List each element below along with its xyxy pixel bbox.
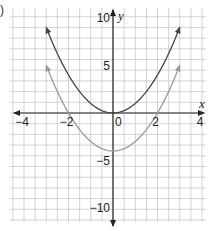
part-label: ): [0, 3, 4, 17]
y-tick-label: −10: [90, 201, 111, 215]
tick-labels: −4−2024105−5−10xy: [15, 8, 205, 215]
x-tick-label: 0: [115, 115, 122, 129]
x-tick-label: −2: [60, 115, 74, 129]
grid: [10, 8, 206, 222]
x-tick-label: 2: [152, 115, 159, 129]
y-axis-label: y: [116, 8, 124, 23]
y-tick-label: 10: [97, 11, 111, 25]
x-tick-label: 4: [197, 115, 204, 129]
y-tick-label: 5: [103, 59, 110, 73]
graph-figure: ) −4−2024105−5−10xy: [0, 0, 216, 231]
coordinate-plane: ) −4−2024105−5−10xy: [0, 0, 216, 231]
y-tick-label: −5: [96, 154, 110, 168]
axes: [14, 10, 204, 226]
x-axis-label: x: [198, 96, 205, 111]
x-tick-label: −4: [15, 115, 29, 129]
